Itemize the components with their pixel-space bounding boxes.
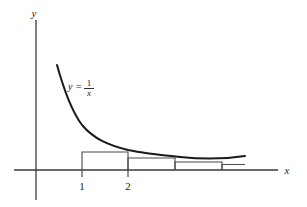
equation-denominator: x xyxy=(86,88,91,98)
rectangle-1 xyxy=(82,152,128,170)
x-tick-label-1: 1 xyxy=(79,180,85,192)
equation-lhs: y xyxy=(67,81,73,92)
equation-numerator: 1 xyxy=(87,78,92,88)
x-tick-label-2: 2 xyxy=(125,180,131,192)
figure-canvas: y x 1 2 y = 1 x xyxy=(0,0,307,207)
rectangle-4 xyxy=(222,165,245,171)
x-axis-label: x xyxy=(284,164,290,176)
rectangle-2 xyxy=(128,158,175,170)
curve-equation-label: y = 1 x xyxy=(67,78,94,98)
y-axis-label: y xyxy=(31,7,37,19)
curve-one-over-x xyxy=(57,65,245,158)
rectangle-3 xyxy=(175,162,222,170)
riemann-sum-figure: y x 1 2 y = 1 x xyxy=(0,0,307,207)
equation-operator: = xyxy=(76,81,82,92)
